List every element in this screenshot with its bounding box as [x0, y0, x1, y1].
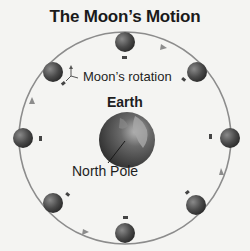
moon-top-left	[43, 62, 66, 86]
moon-right	[209, 128, 240, 148]
moon-rotation-label: Moon’s rotation	[83, 69, 172, 84]
arrow-icon	[82, 229, 89, 235]
earth	[99, 112, 155, 168]
moon-bottom-left	[43, 192, 70, 213]
arrow-icon	[29, 97, 35, 104]
rotation-indicator	[66, 65, 78, 81]
orbit-diagram	[0, 0, 250, 251]
north-pole-label: North Pole	[72, 163, 138, 179]
moon-bottom	[115, 216, 135, 243]
moon-top	[115, 32, 135, 59]
moon-bottom-right	[185, 190, 206, 215]
earth-label: Earth	[107, 94, 143, 110]
moon-left	[13, 128, 42, 148]
moon-top-right	[181, 62, 207, 82]
arrow-icon	[160, 44, 167, 50]
arrow-icon	[219, 168, 224, 175]
